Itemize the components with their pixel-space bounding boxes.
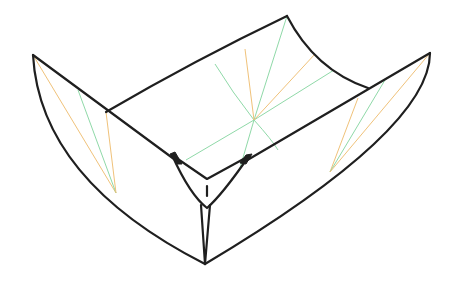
right-flap-top-edge (244, 53, 430, 162)
mountain-crease (330, 53, 430, 172)
mountain-crease (254, 54, 315, 120)
right-flap (205, 53, 430, 264)
back-panel-top-edge (106, 16, 287, 112)
mountain-crease (33, 55, 116, 193)
inner-corner-v (172, 155, 249, 179)
valley-crease (78, 90, 116, 193)
left-flap-creases (33, 55, 116, 193)
corner-seam (201, 205, 210, 264)
right-flap-creases (330, 53, 430, 172)
back-panel-creases (186, 16, 334, 168)
valley-crease (186, 70, 334, 160)
right-flap-curved-edge (205, 53, 430, 264)
front-corner (170, 152, 252, 264)
back-panel-right-curve (287, 16, 368, 88)
origami-tray-diagram (0, 0, 457, 296)
left-flap-top-edge (33, 55, 178, 162)
